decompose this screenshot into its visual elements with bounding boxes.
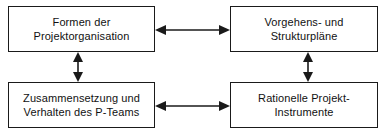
connector-bottom-horizontal-double-arrow-icon: [155, 97, 230, 115]
node-label: Zusammensetzung und Verhalten des P-Team…: [19, 91, 144, 119]
connector-top-horizontal-double-arrow-icon: [155, 21, 230, 39]
node-rationelle-projekt-instrumente[interactable]: Rationelle Projekt- Instrumente: [230, 82, 378, 128]
connector-left-vertical-double-arrow-icon: [69, 52, 87, 82]
connector-right-vertical-double-arrow-icon: [299, 52, 317, 82]
node-label: Vorgehens- und Strukturpläne: [260, 15, 347, 43]
diagram-canvas: Formen der Projektorganisation Vorgehens…: [0, 0, 388, 136]
node-label: Rationelle Projekt- Instrumente: [254, 91, 354, 119]
node-label: Formen der Projektorganisation: [29, 15, 133, 43]
node-zusammensetzung-und-verhalten-des-p-teams[interactable]: Zusammensetzung und Verhalten des P-Team…: [8, 82, 155, 128]
node-formen-der-projektorganisation[interactable]: Formen der Projektorganisation: [8, 6, 155, 52]
node-vorgehens-und-strukturplaene[interactable]: Vorgehens- und Strukturpläne: [230, 6, 378, 52]
